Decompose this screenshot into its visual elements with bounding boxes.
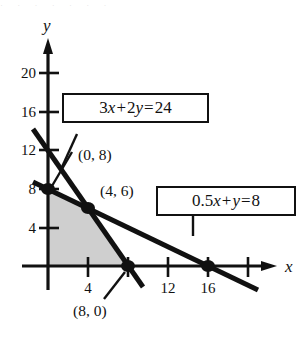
x-axis-arrowhead [261, 261, 277, 271]
equation-2-operator-1: + [221, 192, 233, 209]
point-label-0-8: (0, 8) [78, 147, 112, 163]
y-axis-label: y [43, 17, 51, 34]
equation-2-variable-2: y [232, 192, 240, 209]
coordinate-plane-svg [0, 0, 303, 340]
point-marker-8-0 [121, 260, 135, 272]
point-label-4-6: (4, 6) [100, 183, 134, 199]
equation-2-variable-1: x [213, 192, 221, 209]
y-tick-label-20: 20 [6, 66, 36, 81]
y-tick-label-8: 8 [6, 182, 36, 197]
y-tick-label-16: 16 [6, 105, 36, 120]
graph-figure: · · · · · · · [0, 0, 303, 340]
equation-1-coefficient-2: 2 [127, 99, 136, 116]
equation-1-operator-2: = [143, 99, 155, 116]
x-tick-label-16: 16 [196, 281, 220, 296]
equation-2-operator-2: = [240, 192, 252, 209]
x-axis-label: x [285, 258, 293, 275]
point-marker-16-0 [201, 260, 215, 272]
x-tick-label-4: 4 [76, 281, 100, 296]
equation-1-variable-1: x [108, 99, 116, 116]
y-tick-label-4: 4 [6, 221, 36, 236]
leader-line-equation-1 [62, 134, 77, 167]
equation-1-operator-1: + [115, 99, 127, 116]
equation-box-line-1: 3x+2y=24 [62, 93, 209, 123]
feasible-region-shading [48, 189, 128, 266]
equation-1-coefficient-1: 3 [99, 99, 108, 116]
point-marker-4-6 [81, 202, 95, 214]
equation-box-line-2: 0.5x+y=8 [156, 186, 296, 216]
point-label-8-0: (8, 0) [73, 303, 107, 319]
leader-line-point-8-0 [104, 272, 125, 299]
y-axis-arrowhead [43, 38, 53, 54]
x-tick-label-12: 12 [156, 281, 180, 296]
equation-1-right-hand-side: 24 [155, 99, 172, 116]
equation-2-coefficient-1: 0.5 [192, 192, 213, 209]
equation-2-right-hand-side: 8 [252, 192, 261, 209]
y-tick-label-12: 12 [6, 143, 36, 158]
equation-1-variable-2: y [136, 99, 144, 116]
